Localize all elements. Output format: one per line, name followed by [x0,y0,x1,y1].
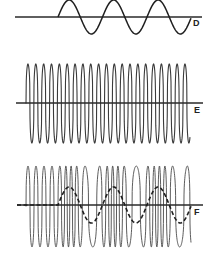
waveform-diagram: D E F [0,0,212,261]
panel-d-modulating-signal: D [15,0,202,34]
panel-f-fm-waveform [26,166,191,247]
panel-f-label: F [194,207,200,217]
panel-e-label: E [194,105,200,115]
panel-d-label: D [193,18,200,28]
panel-e-carrier-wave: E [16,64,203,143]
panel-f-fm-wave: F [17,166,203,247]
